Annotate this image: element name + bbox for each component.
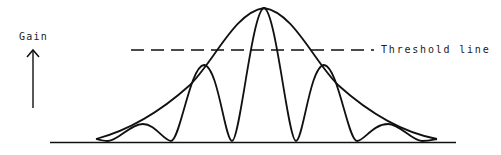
envelope-curve bbox=[96, 8, 437, 139]
threshold-label: Threshold line bbox=[381, 45, 491, 55]
gain-pattern-svg bbox=[0, 0, 501, 155]
up-arrow-icon bbox=[27, 50, 39, 108]
y-axis-label: Gain bbox=[19, 32, 48, 42]
lobe-pattern-curve bbox=[96, 8, 437, 141]
gain-pattern-diagram: Gain Threshold line bbox=[0, 0, 501, 155]
